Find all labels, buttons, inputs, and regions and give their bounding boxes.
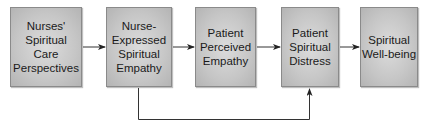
- arrow-n2-n4-feedback: [139, 88, 310, 120]
- connector-layer: [0, 0, 426, 126]
